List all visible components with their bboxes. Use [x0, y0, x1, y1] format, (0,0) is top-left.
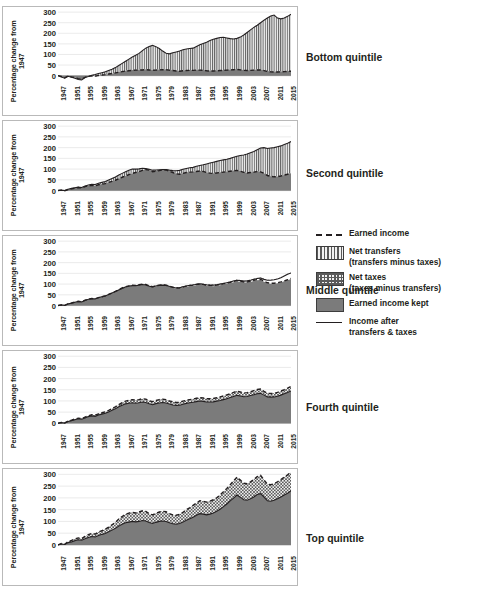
- x-axis-tick: 1959: [101, 556, 108, 571]
- chart-panel-second-quintile: Percentage change from194730025020015010…: [2, 120, 298, 231]
- x-axis-tick: 2015: [290, 201, 297, 216]
- y-axis-tick: 50: [48, 61, 56, 70]
- legend-label: Net transfers(transfers minus taxes): [349, 246, 441, 267]
- panel-label-fourth-quintile: Fourth quintile: [306, 402, 379, 413]
- y-axis-tick: 200: [43, 143, 56, 152]
- x-axis-tick: 1991: [209, 86, 216, 101]
- x-axis-tick: 1999: [236, 86, 243, 101]
- x-axis-tick: 1967: [128, 316, 135, 331]
- x-axis-tick: 2003: [250, 86, 257, 101]
- x-axis-tick: 1983: [182, 434, 189, 449]
- y-axis-tick: 100: [43, 165, 56, 174]
- x-axis-tick: 1951: [74, 201, 81, 216]
- x-axis-tick: 2003: [250, 434, 257, 449]
- x-axis-tick: 1955: [87, 316, 94, 331]
- x-axis-tick: 1955: [87, 434, 94, 449]
- y-axis-label: Percentage change from1947: [5, 7, 31, 115]
- legend-label: Earned income kept: [349, 298, 429, 309]
- y-axis-tick: 300: [43, 8, 56, 17]
- y-axis-tick: 250: [43, 18, 56, 27]
- y-axis-tick: 0: [52, 540, 56, 549]
- x-axis-tick: 2011: [277, 201, 284, 215]
- legend-item: Earned income kept: [316, 298, 480, 311]
- y-axis-tick: 200: [43, 374, 56, 383]
- x-axis-tick: 1971: [141, 434, 148, 449]
- y-axis-tick: 150: [43, 39, 56, 48]
- x-axis-tick: 2011: [277, 556, 284, 570]
- y-axis-label: Percentage change from1947: [5, 121, 31, 230]
- y-axis-label: Percentage change from1947: [5, 351, 31, 463]
- legend-swatch-vertical-stripes: [316, 246, 342, 259]
- legend-item: Earned income: [316, 228, 480, 241]
- y-axis-tick: 100: [43, 50, 56, 59]
- x-axis-tick: 1999: [236, 201, 243, 216]
- x-axis-tick: 1963: [114, 556, 121, 571]
- x-axis-tick: 2015: [290, 434, 297, 449]
- x-axis-tick: 1975: [155, 316, 162, 331]
- plot-area: 300250200150100500: [58, 472, 292, 552]
- x-axis-tick: 1963: [114, 86, 121, 101]
- x-axis-tick: 2003: [250, 201, 257, 216]
- x-axis-tick: 1955: [87, 201, 94, 216]
- x-axis-tick: 1947: [60, 316, 67, 331]
- y-axis-tick: 0: [52, 301, 56, 310]
- x-axis-tick: 1975: [155, 434, 162, 449]
- y-axis-tick: 50: [48, 408, 56, 417]
- x-axis-tick: 2007: [263, 86, 270, 101]
- x-axis-tick: 1979: [168, 86, 175, 101]
- y-axis-tick: 300: [43, 470, 56, 479]
- x-axis-tick: 1971: [141, 86, 148, 101]
- legend-swatch-solid-line: [316, 316, 342, 329]
- x-axis-tick: 1979: [168, 201, 175, 216]
- x-axis-tick: 1995: [222, 201, 229, 216]
- legend-item: Income aftertransfers & taxes: [316, 316, 480, 337]
- y-axis-tick: 300: [43, 352, 56, 361]
- x-axis-tick: 1951: [74, 434, 81, 449]
- plot-area: 300250200150100500: [58, 354, 292, 430]
- y-axis-tick: 50: [48, 290, 56, 299]
- chart-panel-middle-quintile: Percentage change from194730025020015010…: [2, 235, 298, 346]
- x-axis-tick: 2007: [263, 316, 270, 331]
- x-axis-tick: 1999: [236, 316, 243, 331]
- y-axis-tick: 250: [43, 363, 56, 372]
- y-axis-tick: 250: [43, 247, 56, 256]
- x-axis-tick: 1979: [168, 434, 175, 449]
- y-axis-tick: 100: [43, 396, 56, 405]
- legend-swatch-checkerboard: [316, 272, 342, 285]
- y-axis-label: Percentage change from1947: [5, 469, 31, 585]
- x-axis-tick: 1951: [74, 316, 81, 331]
- y-axis-tick: 50: [48, 529, 56, 538]
- x-axis-tick: 1991: [209, 434, 216, 449]
- x-axis-tick: 1963: [114, 201, 121, 216]
- plot-area: 300250200150100500: [58, 124, 292, 197]
- x-axis-tick: 1951: [74, 556, 81, 571]
- x-axis-tick: 1947: [60, 556, 67, 571]
- chart-panel-top-quintile: Percentage change from194730025020015010…: [2, 468, 298, 586]
- plot-area: 300250200150100500: [58, 10, 292, 82]
- legend-label: Income aftertransfers & taxes: [349, 316, 417, 337]
- x-axis-tick: 1951: [74, 86, 81, 101]
- x-axis-tick: 2011: [277, 86, 284, 100]
- x-axis-tick: 1995: [222, 316, 229, 331]
- chart-panel-bottom-quintile: Percentage change from194730025020015010…: [2, 6, 298, 116]
- y-axis-tick: 150: [43, 154, 56, 163]
- y-axis-tick: 50: [48, 175, 56, 184]
- x-axis-tick: 1971: [141, 556, 148, 571]
- y-axis-tick: 300: [43, 237, 56, 246]
- x-axis-tick: 1983: [182, 316, 189, 331]
- y-axis-tick: 100: [43, 517, 56, 526]
- x-axis-tick: 1963: [114, 316, 121, 331]
- x-axis-tick: 2011: [277, 434, 284, 448]
- x-axis-tick: 1995: [222, 434, 229, 449]
- x-axis-tick: 1959: [101, 201, 108, 216]
- panel-label-second-quintile: Second quintile: [306, 168, 383, 179]
- x-axis-tick: 1987: [195, 434, 202, 449]
- x-axis-tick: 1947: [60, 201, 67, 216]
- x-axis-tick: 1991: [209, 316, 216, 331]
- x-axis-tick: 1983: [182, 86, 189, 101]
- y-axis-tick: 0: [52, 71, 56, 80]
- panel-label-middle-quintile: Middle quintile: [306, 285, 379, 296]
- x-axis-tick: 1983: [182, 201, 189, 216]
- x-axis-tick: 1967: [128, 201, 135, 216]
- panel-label-top-quintile: Top quintile: [306, 533, 364, 544]
